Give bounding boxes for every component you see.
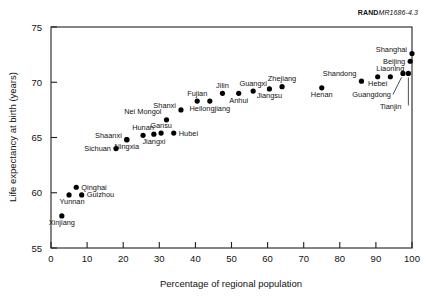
scatter-plot: 5560657075 0102030405060708090100 Xinjia… (0, 0, 428, 300)
data-point-label: Anhui (229, 96, 248, 105)
x-tick-label: 90 (371, 253, 382, 264)
data-point-label: Shanxi (153, 101, 176, 110)
leader-lines (393, 77, 408, 105)
data-point (406, 71, 411, 76)
data-point-label: Hubei (179, 129, 199, 138)
x-tick-label: 30 (154, 253, 165, 264)
data-point (178, 107, 183, 112)
data-point-label: Zhejiang (268, 74, 296, 83)
data-point-label: Jiangsu (257, 91, 282, 100)
x-tick-label: 100 (404, 253, 420, 264)
data-point-label: Shandong (323, 69, 357, 78)
data-point-label: Fujian (187, 89, 207, 98)
data-point (388, 74, 393, 79)
data-point-labels: XinjiangYunnanGuizhouQinghaiSichuanNingx… (49, 45, 408, 227)
x-tick-label: 80 (335, 253, 346, 264)
figure-container: RANDMR1686-4.3 5560657075 01020304050607… (0, 0, 428, 300)
data-point-label: Jilin (216, 81, 229, 90)
data-point-label: Guangdong (352, 90, 391, 99)
x-tick-label: 50 (226, 253, 237, 264)
y-tick-label: 75 (31, 22, 42, 33)
data-point-label: Shanghai (376, 45, 408, 54)
y-axis-title: Life expectancy at birth (years) (7, 72, 18, 202)
data-point-label: Hebei (368, 79, 388, 88)
data-point (159, 130, 164, 135)
data-point (251, 88, 256, 93)
x-axis-ticks (51, 242, 412, 248)
data-point-label: Qinghai (81, 183, 107, 192)
data-point (408, 59, 413, 64)
x-tick-label: 10 (82, 253, 93, 264)
data-point-label: Beijing (383, 57, 405, 66)
data-point (220, 91, 225, 96)
y-tick-label: 60 (31, 187, 42, 198)
data-point-label: Jiangxi (142, 137, 165, 146)
data-point-label: Sichuan (84, 144, 111, 153)
x-tick-label: 20 (118, 253, 129, 264)
x-tick-label: 70 (298, 253, 309, 264)
data-point-label: Guangxi (239, 79, 267, 88)
data-point (279, 84, 284, 89)
data-point (171, 130, 176, 135)
x-tick-label: 40 (190, 253, 201, 264)
data-point-label: Ningxia (114, 142, 140, 151)
y-tick-label: 65 (31, 132, 42, 143)
data-point-label: Shaanxi (95, 131, 122, 140)
data-point-label: Yunnan (60, 197, 85, 206)
data-point (359, 79, 364, 84)
data-point (74, 185, 79, 190)
y-tick-label: 55 (31, 243, 42, 254)
y-axis-tick-labels: 5560657075 (31, 22, 42, 254)
data-point (409, 51, 414, 56)
y-tick-label: 70 (31, 77, 42, 88)
data-point-label: Henan (311, 90, 333, 99)
leader-line (393, 77, 402, 94)
data-point-label: Guizhou (87, 190, 115, 199)
x-axis-tick-labels: 0102030405060708090100 (48, 253, 420, 264)
x-tick-label: 60 (262, 253, 273, 264)
y-axis-ticks (51, 27, 57, 248)
data-point-label: Tianjin (380, 102, 402, 111)
data-point-label: Xinjiang (49, 218, 75, 227)
x-axis-title: Percentage of regional population (160, 278, 302, 289)
data-point-label: Heilongjiang (189, 104, 230, 113)
x-tick-label: 0 (48, 253, 53, 264)
data-point-label: Gansu (150, 121, 172, 130)
